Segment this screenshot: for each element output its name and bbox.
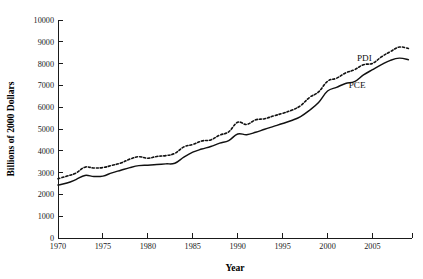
x-tick-label: 1995 [274, 242, 290, 251]
series-line-pdi [58, 47, 408, 179]
chart-series [58, 47, 408, 185]
chart-figure: 0100020003000400050006000700080009000100… [0, 0, 423, 279]
x-tick-label: 1970 [50, 242, 66, 251]
series-label-pce: PCE [349, 80, 366, 90]
y-tick-label: 2000 [38, 190, 54, 199]
x-tick-label: 2005 [364, 242, 380, 251]
y-tick-label: 9000 [38, 38, 54, 47]
x-tick-label: 2000 [319, 242, 335, 251]
axis-ticks [58, 20, 372, 238]
axis-tick-labels: 0100020003000400050006000700080009000100… [34, 16, 381, 251]
line-chart: 0100020003000400050006000700080009000100… [0, 0, 423, 279]
x-tick-label: 1985 [185, 242, 201, 251]
y-tick-label: 4000 [38, 147, 54, 156]
y-tick-label: 7000 [38, 81, 54, 90]
x-axis-title: Year [225, 262, 245, 273]
y-tick-label: 5000 [38, 125, 54, 134]
x-tick-label: 1990 [230, 242, 246, 251]
y-tick-label: 6000 [38, 103, 54, 112]
series-label-pdi: PDI [357, 53, 372, 63]
y-tick-label: 1000 [38, 212, 54, 221]
y-tick-label: 3000 [38, 169, 54, 178]
y-axis-title: Billions of 2000 Dollars [5, 81, 16, 176]
y-tick-label: 10000 [34, 16, 54, 25]
x-tick-label: 1975 [95, 242, 111, 251]
x-tick-label: 1980 [140, 242, 156, 251]
y-tick-label: 8000 [38, 60, 54, 69]
